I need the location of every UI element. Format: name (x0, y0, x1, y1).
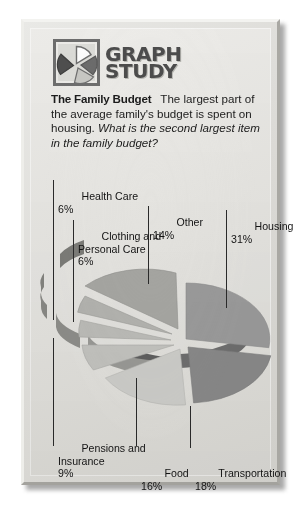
leader-line-clothing (73, 220, 74, 322)
leader-line-transport (190, 406, 191, 448)
pie-slice-housing (186, 283, 270, 348)
label-transportation: Transportation18% (195, 455, 286, 505)
pie-slice-transportation (188, 347, 271, 403)
label-food: Food16% (141, 455, 189, 505)
graph-study-page: GRAPH STUDY The Family BudgetThe largest… (0, 0, 305, 507)
pie-top-faces (78, 269, 271, 405)
label-clothing: Clothing and Personal Care6% (78, 218, 161, 280)
study-card: GRAPH STUDY The Family BudgetThe largest… (21, 19, 280, 485)
leader-line-housing (226, 210, 227, 308)
leader-line-pensions (53, 338, 54, 446)
card-inner-panel: GRAPH STUDY The Family BudgetThe largest… (30, 28, 271, 476)
leader-line-health-care (53, 180, 54, 320)
label-other: Other14% (153, 204, 203, 254)
label-pensions: Pensions and Insurance9% (58, 430, 146, 492)
label-housing: Housing31% (231, 208, 293, 258)
